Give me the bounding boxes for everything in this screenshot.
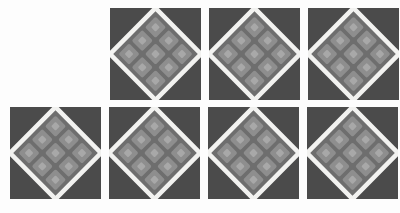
diamond-lattice-motif	[109, 107, 200, 199]
diamond-lattice-motif	[10, 107, 101, 199]
diamond-lattice-motif	[209, 8, 300, 100]
pattern-tile	[109, 107, 200, 199]
pattern-tile	[110, 8, 201, 100]
diamond-lattice-motif	[308, 8, 399, 100]
pattern-tile	[209, 8, 300, 100]
pattern-tile	[208, 107, 299, 199]
diamond-lattice-motif	[208, 107, 299, 199]
diamond-lattice-motif	[110, 8, 201, 100]
pattern-tile	[307, 107, 398, 199]
diamond-lattice-motif	[307, 107, 398, 199]
pattern-tile	[10, 107, 101, 199]
tile-grid-canvas	[0, 0, 400, 213]
pattern-tile	[308, 8, 399, 100]
